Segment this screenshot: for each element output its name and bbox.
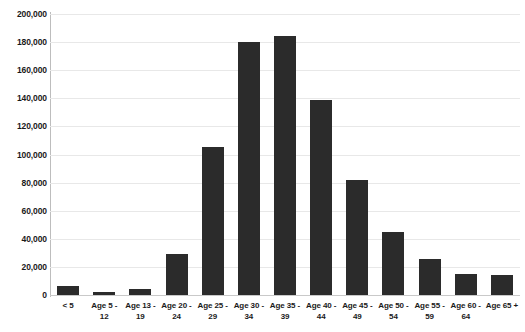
y-tick-label-60000: 60,000 [0, 206, 47, 216]
bar-age-45-49[interactable] [346, 180, 368, 295]
bar-slot [339, 14, 375, 295]
x-tick-label-age-60-64: Age 60 -64 [448, 300, 484, 322]
bar-age-25-29[interactable] [202, 147, 224, 295]
bar-slot [375, 14, 411, 295]
x-tick-label-line: 64 [448, 311, 484, 322]
x-tick-label-line: Age 40 - [303, 300, 339, 311]
x-tick-label-line: 59 [412, 311, 448, 322]
x-tick-label-line: Age 65 + [484, 300, 520, 311]
y-tick-label-20000: 20,000 [0, 262, 47, 272]
x-tick-label-age-20-24: Age 20 -24 [158, 300, 194, 322]
x-tick-label-line: Age 13 - [122, 300, 158, 311]
y-tick-label-200000: 200,000 [0, 9, 47, 19]
x-tick-label-age-45-49: Age 45 -49 [339, 300, 375, 322]
x-tick-label-age-55-59: Age 55 -59 [412, 300, 448, 322]
bar-age-40-44[interactable] [310, 100, 332, 295]
bar-5[interactable] [57, 286, 79, 295]
bar-slot [122, 14, 158, 295]
x-axis-tick-labels: < 5Age 5 -12Age 13 -19Age 20 -24Age 25 -… [50, 300, 520, 332]
x-tick-label-line: Age 5 - [86, 300, 122, 311]
x-tick-label-line: 39 [267, 311, 303, 322]
bar-age-55-59[interactable] [419, 259, 441, 295]
x-tick-label-age-40-44: Age 40 -44 [303, 300, 339, 322]
x-tick-label-line: Age 35 - [267, 300, 303, 311]
bar-slot [195, 14, 231, 295]
bar-age-20-24[interactable] [166, 254, 188, 295]
bar-slot [86, 14, 122, 295]
y-tick-label-120000: 120,000 [0, 121, 47, 131]
y-tick-label-180000: 180,000 [0, 37, 47, 47]
y-tick-label-80000: 80,000 [0, 178, 47, 188]
x-tick-label-age-30-34: Age 30 -34 [231, 300, 267, 322]
x-tick-label-line: Age 50 - [375, 300, 411, 311]
bar-chart: 020,00040,00060,00080,000100,000120,0001… [0, 0, 525, 332]
x-tick-label-age-50-54: Age 50 -54 [375, 300, 411, 322]
y-tick-label-0: 0 [0, 290, 47, 300]
x-tick-label-line: Age 25 - [195, 300, 231, 311]
bar-slot [484, 14, 520, 295]
x-tick-label-line: Age 20 - [158, 300, 194, 311]
bar-age-65[interactable] [491, 275, 513, 295]
bar-series [50, 8, 520, 301]
bar-age-60-64[interactable] [455, 274, 477, 295]
x-tick-label-age-35-39: Age 35 -39 [267, 300, 303, 322]
bar-age-30-34[interactable] [238, 42, 260, 295]
x-tick-label-age-25-29: Age 25 -29 [195, 300, 231, 322]
x-tick-label-line: Age 45 - [339, 300, 375, 311]
bar-slot [448, 14, 484, 295]
y-tick-label-40000: 40,000 [0, 234, 47, 244]
x-tick-label-line: 34 [231, 311, 267, 322]
bar-age-13-19[interactable] [129, 289, 151, 295]
x-tick-label-line: Age 30 - [231, 300, 267, 311]
x-tick-label-line: 24 [158, 311, 194, 322]
y-tick-label-140000: 140,000 [0, 93, 47, 103]
bar-age-35-39[interactable] [274, 36, 296, 295]
bar-slot [303, 14, 339, 295]
x-tick-label-line: < 5 [50, 300, 86, 311]
x-tick-label-age-5-12: Age 5 -12 [86, 300, 122, 322]
x-tick-label-age-65: Age 65 + [484, 300, 520, 311]
x-tick-label-line: 44 [303, 311, 339, 322]
bar-slot [412, 14, 448, 295]
y-tick-label-100000: 100,000 [0, 150, 47, 160]
bar-slot [231, 14, 267, 295]
y-tick-label-160000: 160,000 [0, 65, 47, 75]
x-tick-label-line: 54 [375, 311, 411, 322]
x-tick-label-5: < 5 [50, 300, 86, 311]
bar-slot [158, 14, 194, 295]
x-tick-label-line: Age 55 - [412, 300, 448, 311]
x-tick-label-line: 19 [122, 311, 158, 322]
x-tick-label-line: 12 [86, 311, 122, 322]
y-axis-tick-labels: 020,00040,00060,00080,000100,000120,0001… [0, 8, 47, 301]
bar-slot [50, 14, 86, 295]
bar-slot [267, 14, 303, 295]
x-tick-label-line: Age 60 - [448, 300, 484, 311]
x-tick-label-age-13-19: Age 13 -19 [122, 300, 158, 322]
x-tick-label-line: 49 [339, 311, 375, 322]
x-tick-label-line: 29 [195, 311, 231, 322]
bar-age-50-54[interactable] [382, 232, 404, 295]
bar-age-5-12[interactable] [93, 292, 115, 295]
